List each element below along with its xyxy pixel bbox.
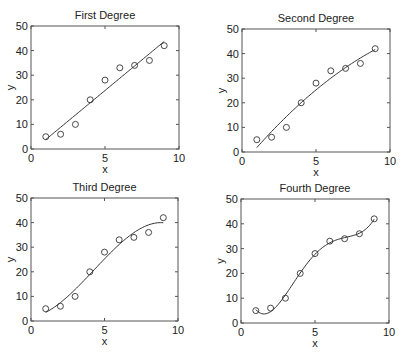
y-tick-label: 20 [227, 97, 239, 109]
data-point-marker [371, 216, 377, 222]
data-point-marker [146, 57, 152, 63]
data-point-marker [283, 124, 289, 130]
y-tick-label: 40 [226, 218, 238, 230]
data-point-marker [254, 137, 260, 143]
y-axis-label: y [214, 258, 226, 264]
data-point-marker [72, 121, 78, 127]
data-point-marker [253, 308, 259, 314]
y-axis: 01020304050 [226, 193, 389, 329]
y-tick-label: 10 [16, 290, 28, 302]
x-tick-label: 0 [28, 324, 34, 336]
x-tick-label: 5 [102, 152, 108, 164]
y-axis-label: y [4, 84, 16, 90]
fit-curve [46, 41, 164, 139]
data-point-marker [58, 131, 64, 137]
y-tick-label: 40 [16, 45, 28, 57]
x-tick-label: 10 [173, 152, 185, 164]
x-tick-label: 0 [28, 152, 34, 164]
data-point-marker [72, 293, 78, 299]
data-point-marker [116, 237, 122, 243]
x-tick-label: 5 [313, 155, 319, 167]
y-axis: 01020304050 [227, 23, 390, 158]
y-tick-label: 20 [16, 266, 28, 278]
y-tick-label: 30 [227, 72, 239, 84]
x-tick-label: 10 [172, 324, 184, 336]
subplot-title: First Degree [75, 9, 136, 21]
data-point-marker [102, 249, 108, 255]
data-point-marker [146, 229, 152, 235]
data-point-marker [312, 251, 318, 257]
x-tick-label: 10 [383, 326, 395, 338]
axes-frame [31, 26, 179, 149]
y-tick-label: 20 [16, 94, 28, 106]
data-markers [254, 46, 378, 143]
x-axis-label: x [313, 166, 319, 178]
y-tick-label: 40 [16, 217, 28, 229]
data-point-marker [313, 80, 319, 86]
subplot-first-degree: First Degree x y 051001020304050 [4, 9, 185, 175]
data-point-marker [161, 43, 167, 49]
y-tick-label: 30 [226, 243, 238, 255]
data-point-marker [342, 236, 348, 242]
data-point-marker [102, 77, 108, 83]
subplot-title: Third Degree [72, 181, 136, 193]
x-tick-label: 10 [384, 155, 396, 167]
data-point-marker [269, 134, 275, 140]
data-point-marker [57, 303, 63, 309]
data-point-marker [87, 97, 93, 103]
y-tick-label: 0 [232, 317, 238, 329]
y-tick-label: 50 [227, 23, 239, 35]
subplot-title: Second Degree [278, 12, 354, 24]
y-axis: 01020304050 [16, 20, 179, 155]
data-markers [43, 215, 167, 312]
data-point-marker [160, 215, 166, 221]
data-point-marker [131, 234, 137, 240]
y-tick-label: 50 [16, 20, 28, 32]
data-markers [43, 43, 167, 140]
x-tick-label: 0 [238, 326, 244, 338]
y-tick-label: 10 [226, 292, 238, 304]
y-axis-label: y [215, 87, 227, 93]
x-tick-label: 5 [312, 326, 318, 338]
y-tick-label: 50 [16, 192, 28, 204]
data-point-marker [43, 134, 49, 140]
y-tick-label: 20 [226, 267, 238, 279]
data-point-marker [117, 65, 123, 71]
data-point-marker [328, 68, 334, 74]
y-tick-label: 50 [226, 193, 238, 205]
x-axis-label: x [312, 337, 318, 349]
subplot-third-degree: Third Degree x y 051001020304050 [4, 181, 184, 347]
y-axis-label: y [4, 256, 16, 262]
data-point-marker [268, 305, 274, 311]
y-tick-label: 10 [16, 118, 28, 130]
data-markers [253, 216, 377, 314]
axes-frame [241, 199, 389, 323]
y-tick-label: 30 [16, 241, 28, 253]
x-axis-label: x [102, 335, 108, 347]
y-axis: 01020304050 [16, 192, 178, 327]
figure: First Degree x y 051001020304050 Second … [0, 0, 405, 361]
x-axis-label: x [102, 163, 108, 175]
y-tick-label: 10 [227, 121, 239, 133]
y-tick-label: 0 [22, 143, 28, 155]
subplot-title: Fourth Degree [280, 182, 351, 194]
data-point-marker [357, 60, 363, 66]
subplot-fourth-degree: Fourth Degree x y 051001020304050 [214, 182, 395, 349]
x-tick-label: 5 [101, 324, 107, 336]
subplot-grid: First Degree x y 051001020304050 Second … [0, 0, 405, 361]
subplot-second-degree: Second Degree x y 051001020304050 [215, 12, 396, 178]
data-point-marker [372, 46, 378, 52]
data-point-marker [343, 65, 349, 71]
y-tick-label: 0 [22, 315, 28, 327]
data-point-marker [43, 306, 49, 312]
y-tick-label: 40 [227, 48, 239, 60]
x-tick-label: 0 [239, 155, 245, 167]
fit-curve [46, 223, 164, 313]
y-tick-label: 0 [233, 146, 239, 158]
y-tick-label: 30 [16, 69, 28, 81]
